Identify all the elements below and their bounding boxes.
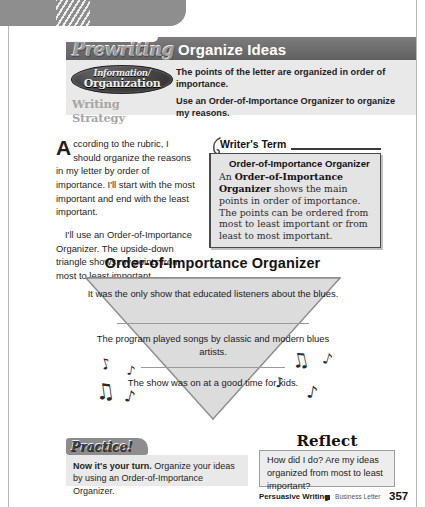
practice-tab-label: Practice! [71,439,132,454]
page-border-left [8,0,9,507]
triangle-divider-1 [117,323,309,324]
writing-strategy-label: Writing Strategy [72,97,176,125]
stage-label: Prewriting [72,39,174,60]
writers-term-body: Order-of-Importance Organizer An Order-o… [209,153,381,248]
drop-cap: A [56,137,73,157]
practice-tab: Practice! [66,438,148,455]
page-title: Organize Ideas [178,41,286,58]
practice-box: Now it's your turn. Organize your ideas … [66,455,248,486]
organizer-title: Order-of-Importance Organizer [0,255,425,271]
badge-line-2: Organization [72,77,172,90]
reflect-text: How did I do? Are my ideas organized fro… [267,454,391,493]
strategy-point-text: The points of the letter are organized i… [176,66,408,90]
writers-term-heading: Writer's Term [220,138,286,150]
footer-genre: Business Letter [335,493,380,500]
narration-paragraph-1: According to the rubric, I should organi… [56,137,196,218]
hatch-pattern-icon [56,0,90,26]
top-gray-tab [0,0,186,26]
practice-lead: Now it's your turn. [73,461,152,471]
page-footer: Persuasive Writing Business Letter 357 [259,491,419,503]
practice-text: Now it's your turn. Organize your ideas … [73,460,245,497]
definition-prefix: An [219,171,235,182]
information-organization-badge: Information/ Organization [71,65,173,94]
reflect-box: How did I do? Are my ideas organized fro… [259,450,395,487]
writers-term-callout: Writer's Term Order-of-Importance Organi… [209,138,381,248]
page-border-right [416,0,417,507]
writing-strategy-panel: Information/ Organization The points of … [66,60,416,115]
footer-square-icon [325,495,330,500]
reflect-title: Reflect [262,432,392,450]
music-notes-left-icon: ♪ ♪ ♫ ♪ [95,355,165,415]
stage-banner: Prewriting Organize Ideas [66,37,416,60]
footer-strand: Persuasive Writing [259,492,329,501]
writers-term-definition: An Order-of-Importance Organizer shows t… [219,171,374,241]
writers-term-term: Order-of-Importance Organizer [219,158,374,170]
music-notes-right-icon: ♫ ♪ ♪ ♪ [275,348,355,413]
writers-term-rule [291,148,381,150]
writing-strategy-text: Use an Order-of-Importance Organizer to … [176,95,408,119]
writers-term-header: Writer's Term [209,138,381,152]
page-number: 357 [389,490,408,502]
organizer-row-1: It was the only show that educated liste… [85,288,341,301]
narration-paragraph-1-text: ccording to the rubric, I should organiz… [56,138,195,217]
textbook-page: Prewriting Organize Ideas Information/ O… [0,0,425,507]
